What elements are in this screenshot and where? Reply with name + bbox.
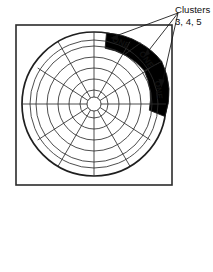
annotation-subtitle: 3, 4, 5 xyxy=(175,16,202,27)
annotation-title: Clusters xyxy=(175,4,210,15)
center-hub-circle xyxy=(87,97,101,111)
polar-cluster-diagram: ONE ONE ONE Clusters 3, 4, 5 xyxy=(0,0,213,272)
diagram-canvas: ONE ONE ONE Clusters 3, 4, 5 xyxy=(0,0,213,272)
